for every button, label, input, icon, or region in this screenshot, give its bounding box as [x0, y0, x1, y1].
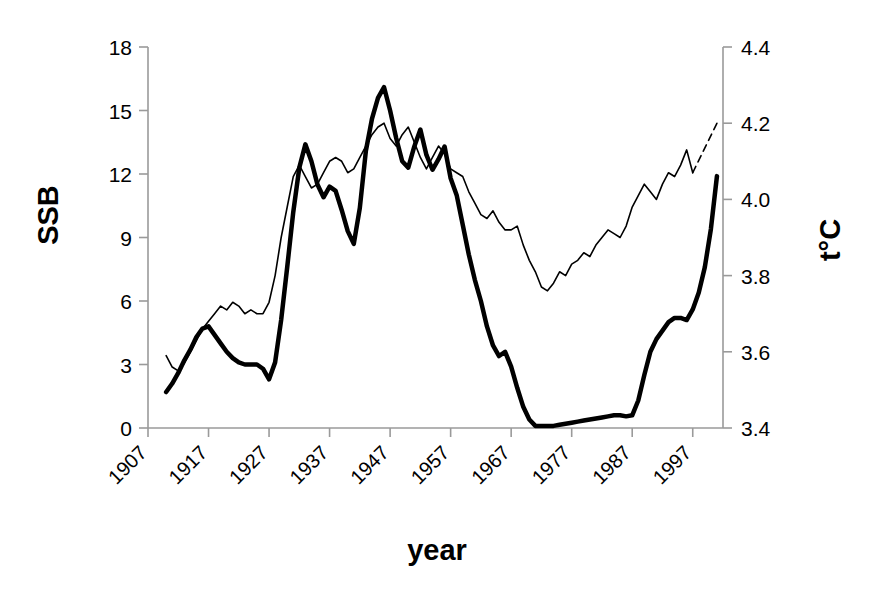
x-tick-label: 1947 [346, 441, 393, 488]
chart-figure: 1815129630 4.44.24.03.83.63.4 1907191719… [0, 0, 889, 593]
y-tick-label-right: 4.2 [741, 112, 770, 135]
y-tick-label-left: 3 [120, 354, 132, 377]
y-tick-label-right: 3.4 [741, 417, 771, 440]
chart-series-layer [166, 87, 717, 426]
y-axis-left-ticks [139, 47, 148, 428]
x-tick-label: 1937 [285, 441, 332, 488]
y-tick-label-right: 3.6 [741, 341, 770, 364]
x-tick-label: 1957 [406, 441, 453, 488]
y-axis-left-title: SSB [32, 185, 64, 245]
x-tick-label: 1967 [467, 441, 514, 488]
y-tick-label-right: 3.8 [741, 265, 770, 288]
x-axis-title: year [407, 534, 467, 566]
axis-lines [148, 47, 723, 428]
chart-canvas: 1815129630 4.44.24.03.83.63.4 1907191719… [0, 0, 889, 593]
series-line-ssb [166, 87, 717, 426]
y-tick-label-left: 6 [120, 290, 132, 313]
x-tick-label: 1987 [588, 441, 635, 488]
y-axis-left-tick-labels: 1815129630 [109, 36, 132, 440]
x-tick-label: 1997 [649, 441, 696, 488]
y-axis-right-title: t°C [814, 219, 846, 261]
x-tick-label: 1907 [104, 441, 151, 488]
y-tick-label-left: 18 [109, 36, 132, 59]
y-tick-label-right: 4.4 [741, 36, 771, 59]
x-tick-label: 1917 [164, 441, 211, 488]
y-axis-right-tick-labels: 4.44.24.03.83.63.4 [741, 36, 771, 440]
y-tick-label-left: 0 [120, 417, 132, 440]
x-tick-label: 1977 [527, 441, 574, 488]
x-axis-ticks [148, 428, 693, 437]
y-tick-label-left: 9 [120, 227, 132, 250]
y-axis-right-ticks [723, 47, 732, 428]
series-line-t-c-projection [693, 123, 717, 173]
x-tick-label: 1927 [225, 441, 272, 488]
y-tick-label-left: 15 [109, 100, 132, 123]
x-axis-tick-labels: 1907191719271937194719571967197719871997 [104, 441, 696, 488]
y-tick-label-right: 4.0 [741, 188, 770, 211]
y-tick-label-left: 12 [109, 163, 132, 186]
